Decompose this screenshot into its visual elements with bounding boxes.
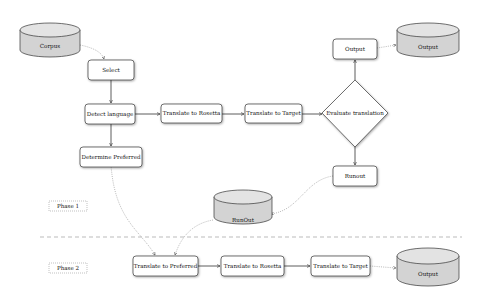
phase-1-label: Phase 1	[49, 201, 87, 211]
translate-rosetta-1-label: Translate to Rosetta	[163, 110, 221, 116]
runout-db-label: RunOut	[232, 217, 255, 223]
output-box-label: Output	[345, 46, 366, 53]
runout-database: RunOut	[214, 190, 272, 224]
translate-target-1-label: Translate to Target	[246, 110, 301, 117]
phase-1-text: Phase 1	[57, 203, 79, 209]
output-bottom-database: Output	[397, 248, 459, 286]
translate-preferred-label: Translate to Preferred	[134, 263, 198, 269]
corpus-label: Corpus	[40, 43, 61, 50]
output-top-label: Output	[418, 44, 439, 51]
evaluate-label: Evaluate translation	[326, 110, 384, 116]
corpus-database: Corpus	[20, 23, 80, 57]
flowchart-canvas: Phase 1 Phase 2 Corpus Output	[0, 0, 480, 302]
phase-2-text: Phase 2	[57, 265, 80, 271]
runout-box-label: Runout	[345, 173, 366, 179]
edges-solid	[111, 60, 355, 266]
phase-2-label: Phase 2	[49, 263, 87, 273]
output-bottom-label: Output	[418, 271, 439, 278]
detect-language-label: Detect language	[87, 111, 134, 118]
translate-rosetta-2-label: Translate to Rosetta	[224, 263, 282, 269]
output-top-database: Output	[397, 23, 459, 57]
select-label: Select	[102, 67, 120, 73]
translate-target-2-label: Translate to Target	[313, 263, 368, 270]
determine-preferred-label: Determine Preferred	[81, 154, 141, 160]
